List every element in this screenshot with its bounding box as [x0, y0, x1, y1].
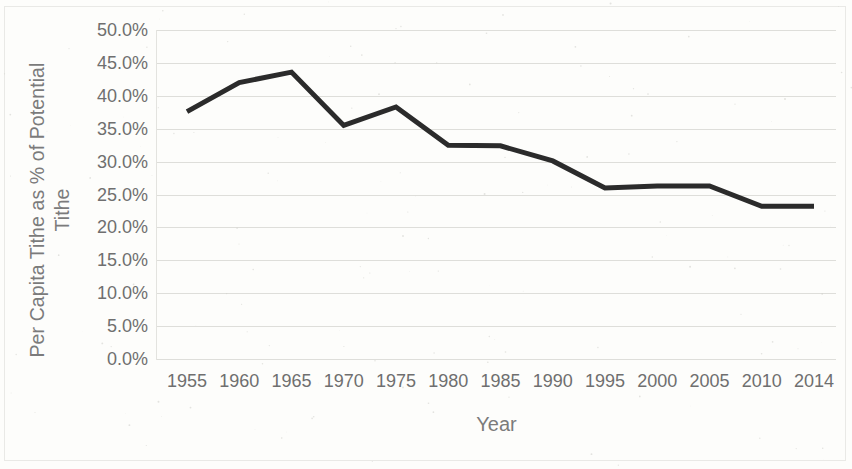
y-axis-tick-label: 35.0% — [97, 120, 148, 138]
y-axis-title: Per Capita Tithe as % of Potential Tithe — [25, 30, 75, 390]
x-axis-tick-label: 1995 — [585, 370, 625, 392]
y-axis-tick-label: 40.0% — [97, 87, 148, 105]
x-axis-title: Year — [157, 412, 836, 436]
x-axis-tick-label: 1970 — [324, 370, 364, 392]
x-axis-tick-labels: 1955196019651970197519801985199019952000… — [157, 370, 836, 396]
x-axis-tick-label: 1975 — [376, 370, 416, 392]
y-axis-tick-label: 50.0% — [97, 21, 148, 39]
y-axis-tick-label: 25.0% — [97, 186, 148, 204]
x-axis-tick-label: 2014 — [794, 370, 834, 392]
x-axis-tick-label: 1980 — [428, 370, 468, 392]
y-axis-tick-label: 45.0% — [97, 54, 148, 72]
y-axis-tick-labels: 50.0%45.0%40.0%35.0%30.0%25.0%20.0%15.0%… — [70, 0, 148, 469]
y-axis-tick-label: 5.0% — [107, 317, 148, 335]
plot-area — [157, 30, 836, 359]
x-axis-tick-label: 1965 — [271, 370, 311, 392]
x-axis-tick-label: 1955 — [167, 370, 207, 392]
x-axis-tick-label: 1985 — [480, 370, 520, 392]
y-axis-tick-label: 30.0% — [97, 153, 148, 171]
gridline — [157, 359, 836, 360]
y-axis-tick-label: 15.0% — [97, 251, 148, 269]
x-axis-tick-label: 2010 — [742, 370, 782, 392]
x-axis-tick-label: 1960 — [219, 370, 259, 392]
x-axis-tick-label: 1990 — [533, 370, 573, 392]
y-axis-tick-label: 10.0% — [97, 284, 148, 302]
y-axis-tick-label: 20.0% — [97, 218, 148, 236]
y-axis-tick-label: 0.0% — [107, 350, 148, 368]
x-axis-tick-label: 2005 — [689, 370, 729, 392]
line-chart: Per Capita Tithe as % of Potential Tithe… — [0, 0, 852, 469]
data-series-line — [157, 30, 836, 359]
y-axis-title-line-1: Per Capita Tithe as % of Potential — [25, 30, 50, 390]
x-axis-tick-label: 2000 — [637, 370, 677, 392]
